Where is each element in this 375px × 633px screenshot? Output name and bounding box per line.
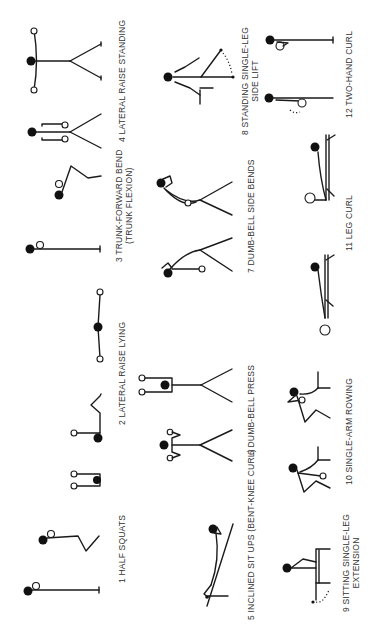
label-exercise-7: 7 DUMB-BELL SIDE BENDS bbox=[246, 159, 256, 273]
exercise-2-figure bbox=[71, 289, 103, 489]
label-exercise-6: 6 DUMB-BELL PRESS bbox=[246, 365, 256, 455]
label-exercise-2: 2 LATERAL RAISE LYING bbox=[117, 322, 127, 425]
exercise-1-figure bbox=[24, 531, 100, 596]
label-exercise-10: 10 SINGLE-ARM ROWING bbox=[344, 378, 354, 485]
exercise-4-figure bbox=[27, 28, 102, 148]
exercise-3-figure bbox=[26, 166, 102, 254]
label-exercise-9: 9 SITTING SINGLE-LEG EXTENSION bbox=[341, 514, 361, 612]
exercise-8-figure bbox=[164, 48, 235, 104]
label-exercise-11: 11 LEG CURL bbox=[344, 195, 354, 251]
label-exercise-1: 1 HALF SQUATS bbox=[117, 515, 127, 583]
label-exercise-8: 8 STANDING SINGLE-LEG SIDE LIFT bbox=[240, 27, 260, 135]
label-exercise-3: 3 TRUNK-FORWARD BEND (TRUNK FLEXION) bbox=[114, 150, 134, 263]
exercise-10-figure bbox=[288, 372, 330, 492]
exercise-6-figure bbox=[139, 369, 232, 461]
stick-figure-illustrations bbox=[0, 0, 375, 633]
label-exercise-4: 4 LATERAL RAISE STANDING bbox=[117, 20, 127, 142]
exercise-11-figure bbox=[305, 135, 335, 335]
exercise-5-figure bbox=[204, 524, 233, 606]
exercise-7-figure bbox=[157, 176, 233, 278]
label-exercise-5: 5 INCLINED SIT UPS (BENT-KNEE CURL) bbox=[246, 449, 256, 620]
exercise-12-figure bbox=[265, 36, 334, 113]
label-exercise-12: 12 TWO-HAND CURL bbox=[344, 31, 354, 118]
exercise-9-figure bbox=[283, 549, 331, 604]
exercise-diagram-page: 4 LATERAL RAISE STANDING 3 TRUNK-FORWARD… bbox=[0, 0, 375, 633]
